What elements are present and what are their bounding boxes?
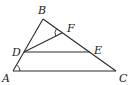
angle-a-mark	[17, 65, 20, 71]
segment-bc	[43, 19, 116, 71]
label-c: C	[119, 72, 128, 85]
angle-dfb-mark	[55, 29, 56, 36]
label-a: A	[1, 72, 10, 85]
label-d: D	[11, 46, 21, 59]
geometry-diagram: A B C D E F	[0, 0, 133, 85]
label-e: E	[93, 44, 102, 57]
label-b: B	[37, 4, 46, 17]
label-f: F	[66, 22, 75, 35]
